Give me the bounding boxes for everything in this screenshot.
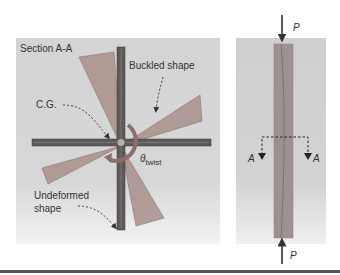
- diagram-graphics: [0, 0, 340, 275]
- section-label-left: A: [248, 153, 255, 164]
- bottom-rule: [0, 270, 340, 273]
- cg-label: C.G.: [36, 99, 57, 110]
- buckled-shape-label: Buckled shape: [129, 60, 195, 71]
- undeformed-label-line2: shape: [34, 203, 61, 214]
- section-label-right: A: [313, 153, 320, 164]
- theta-twist-label: θtwist: [140, 153, 161, 167]
- load-label-bottom: P: [290, 250, 297, 261]
- section-title: Section A-A: [20, 43, 72, 54]
- load-label-top: P: [293, 22, 300, 33]
- column: [274, 44, 293, 238]
- theta-subscript: twist: [145, 158, 161, 167]
- cg-marker: [117, 139, 125, 147]
- undeformed-label-line1: Undeformed: [34, 190, 89, 201]
